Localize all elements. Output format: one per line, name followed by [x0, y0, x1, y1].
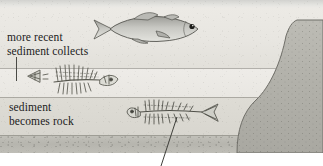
- label-sediment-becomes-rock: sediment becomes rock: [9, 100, 74, 128]
- label-sediment-becomes-rock-line2: becomes rock: [9, 114, 74, 128]
- label-sediment-becomes-rock-line1: sediment: [9, 100, 74, 114]
- live-fish: [88, 10, 210, 48]
- label-more-recent-sediment-line1: more recent: [7, 30, 88, 44]
- leader-line-vertical: [16, 57, 17, 81]
- fish-skeleton-upper: [26, 60, 121, 96]
- leader-line-diagonal: [155, 117, 195, 166]
- label-more-recent-sediment-line2: sediment collects: [7, 44, 88, 58]
- label-more-recent-sediment: more recent sediment collects: [7, 30, 88, 58]
- fossil-formation-diagram: more recent sediment collects sediment b…: [0, 0, 323, 166]
